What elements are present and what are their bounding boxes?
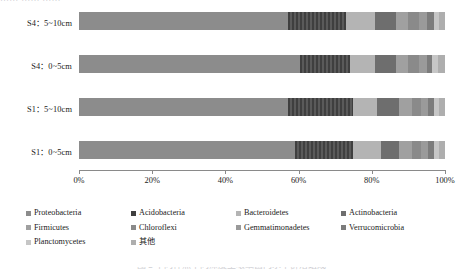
legend-label: 其他 (139, 238, 155, 246)
legend-item[interactable]: Bacteroidetes (236, 209, 341, 217)
legend-item[interactable]: Actinobacteria (341, 209, 446, 217)
bar-segment (353, 141, 380, 159)
legend-swatch-icon (236, 225, 241, 230)
bar-segment (288, 98, 354, 116)
y-axis-label: S1：5~10cm (27, 102, 72, 114)
legend-label: Proteobacteria (34, 209, 81, 217)
bar-segment (79, 141, 295, 159)
x-axis-tick-label: 100% (435, 176, 455, 185)
chart-legend: ProteobacteriaAcidobacteriaBacteroidetes… (26, 206, 446, 250)
legend-swatch-icon (341, 211, 346, 216)
x-axis-tick (445, 170, 446, 174)
bar-segment (350, 55, 376, 73)
bar-segment (408, 55, 419, 73)
legend-swatch-icon (236, 211, 241, 216)
bar-segment (377, 98, 399, 116)
x-axis-tick (225, 170, 226, 174)
legend-swatch-icon (131, 225, 136, 230)
bar-segment (295, 141, 354, 159)
bar-segment (439, 12, 444, 30)
legend-swatch-icon (131, 240, 136, 245)
bar-segment (79, 55, 300, 73)
legend-item[interactable]: Acidobacteria (131, 209, 236, 217)
x-axis-tick (372, 170, 373, 174)
plot-area (79, 8, 445, 178)
bar-segment (412, 98, 421, 116)
bar-segment (438, 55, 445, 73)
bar-segment (79, 12, 288, 30)
bar-segment (421, 141, 428, 159)
bar-2 (79, 98, 445, 116)
bar-4 (79, 12, 445, 30)
y-axis-label: S4：5~10cm (27, 16, 72, 28)
legend-label: Chloroflexi (139, 224, 177, 232)
bar-segment (396, 55, 409, 73)
legend-item[interactable]: Firmicutes (26, 224, 131, 232)
bar-segment (408, 12, 419, 30)
bar-segment (375, 12, 395, 30)
x-axis-tick (299, 170, 300, 174)
bar-segment (399, 141, 412, 159)
bar-segment (346, 12, 375, 30)
bar-segment (396, 12, 409, 30)
legend-swatch-icon (26, 211, 31, 216)
bar-segment (421, 98, 428, 116)
legend-item[interactable]: Verrucomicrobia (341, 224, 446, 232)
x-axis-tick-label: 80% (364, 176, 379, 185)
legend-item[interactable]: Proteobacteria (26, 209, 131, 217)
x-axis-tick-label: 20% (145, 176, 160, 185)
bar-segment (79, 98, 288, 116)
bar-segment (375, 55, 395, 73)
legend-label: Acidobacteria (139, 209, 185, 217)
legend-item[interactable]: Chloroflexi (131, 224, 236, 232)
bar-segment (288, 12, 347, 30)
legend-swatch-icon (131, 211, 136, 216)
bar-segment (353, 98, 377, 116)
stacked-bar-chart: S1：0~5cmS1：5~10cmS4：0~5cmS4：5~10cm (0, 8, 463, 203)
legend-label: Planctomycetes (34, 238, 85, 246)
x-axis-tick-label: 40% (218, 176, 233, 185)
bar-3 (79, 55, 445, 73)
x-axis-line (79, 170, 445, 171)
legend-item[interactable]: Gemmatimonadetes (236, 224, 341, 232)
figure-caption-cut: 图 2 不同样点不同深度土壤细菌门水平群落组成 (0, 267, 463, 273)
legend-label: Firmicutes (34, 224, 69, 232)
bar-segment (419, 12, 426, 30)
bar-segment (427, 12, 434, 30)
y-axis-label: S1：0~5cm (31, 145, 72, 157)
legend-label: Verrucomicrobia (349, 224, 404, 232)
x-axis-tick (79, 170, 80, 174)
bar-segment (399, 98, 412, 116)
legend-label: Gemmatimonadetes (244, 224, 309, 232)
legend-swatch-icon (26, 225, 31, 230)
bar-segment (439, 98, 444, 116)
x-axis-tick-label: 60% (291, 176, 306, 185)
bar-segment (381, 141, 399, 159)
legend-item[interactable]: 其他 (131, 238, 236, 246)
top-cut-text: …… …… …… (0, 0, 463, 7)
legend-swatch-icon (26, 240, 31, 245)
bar-segment (412, 141, 421, 159)
x-axis-tick-label: 0% (73, 176, 84, 185)
y-axis-labels: S1：0~5cmS1：5~10cmS4：0~5cmS4：5~10cm (0, 8, 76, 178)
y-axis-label: S4：0~5cm (31, 59, 72, 71)
bar-segment (419, 55, 426, 73)
legend-label: Bacteroidetes (244, 209, 289, 217)
bar-segment (300, 55, 349, 73)
bar-1 (79, 141, 445, 159)
legend-swatch-icon (341, 225, 346, 230)
legend-item[interactable]: Planctomycetes (26, 238, 131, 246)
bar-segment (439, 141, 444, 159)
x-axis-tick (152, 170, 153, 174)
legend-label: Actinobacteria (349, 209, 397, 217)
